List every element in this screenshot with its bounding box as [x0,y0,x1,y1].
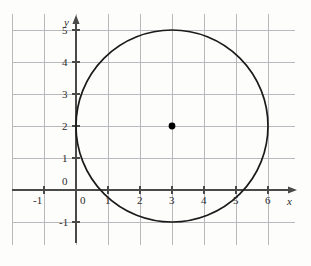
center-point-marker [169,123,176,130]
y-axis-title: y [64,17,69,28]
y-tick-label-2: 2 [62,121,68,132]
x-tick-label-6: 6 [265,195,271,206]
y-axis-arrow [72,15,79,24]
y-tick-label-1: 1 [62,153,68,164]
y-tick-label-4: 4 [62,57,68,68]
x-tick-label-0: 0 [80,195,86,206]
x-axis-title: x [287,196,292,207]
x-tick-label-3: 3 [169,195,175,206]
x-tick-label-2: 2 [137,195,143,206]
coordinate-plane-figure: -1 0 1 2 3 4 5 6 5 4 3 2 1 0 -1 y x [0,0,311,266]
y-tick-label-0: 0 [62,176,68,187]
grid-lines [12,14,295,245]
x-axis-arrow [288,186,297,193]
x-tick-label--1: -1 [33,195,42,206]
y-tick-label--1: -1 [59,217,68,228]
plot-canvas [0,0,311,266]
x-tick-label-1: 1 [105,195,111,206]
x-tick-label-4: 4 [201,195,207,206]
x-axis [12,186,297,193]
y-tick-label-3: 3 [62,89,68,100]
x-tick-label-5: 5 [233,195,239,206]
